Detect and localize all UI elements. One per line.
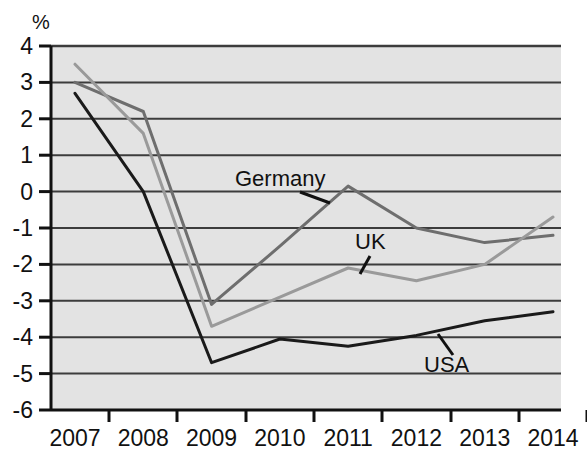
x-tick-label: 2012 — [391, 425, 442, 451]
y-tick-label: -5 — [13, 361, 33, 387]
x-tick-label: 2013 — [459, 425, 510, 451]
y-tick-label: -1 — [13, 215, 33, 241]
y-axis-unit-label: % — [32, 11, 50, 33]
y-tick-label: 1 — [20, 142, 33, 168]
y-tick-label: -2 — [13, 251, 33, 277]
y-tick-label: 3 — [20, 69, 33, 95]
x-tick-label: 2008 — [118, 425, 169, 451]
x-tick-label: 2014 — [527, 425, 578, 451]
x-tick-label: 2009 — [186, 425, 237, 451]
x-tick-label: 2011 — [323, 425, 372, 451]
y-tick-label: -6 — [13, 397, 33, 423]
y-tick-label: -4 — [13, 324, 34, 350]
y-tick-label: 0 — [20, 179, 33, 205]
y-tick-label: 4 — [20, 33, 33, 59]
chart-page: 43210-1-2-3-4-5-6 % 20072008200920102011… — [0, 0, 587, 455]
line-chart: 43210-1-2-3-4-5-6 % 20072008200920102011… — [0, 0, 587, 455]
series-label-usa: USA — [424, 352, 470, 377]
y-tick-label: 2 — [20, 106, 33, 132]
x-tick-label: 2010 — [254, 425, 305, 451]
y-tick-label: -3 — [13, 288, 33, 314]
series-label-germany: Germany — [235, 166, 325, 191]
series-label-uk: UK — [355, 229, 386, 254]
x-tick-label: 2007 — [49, 425, 100, 451]
